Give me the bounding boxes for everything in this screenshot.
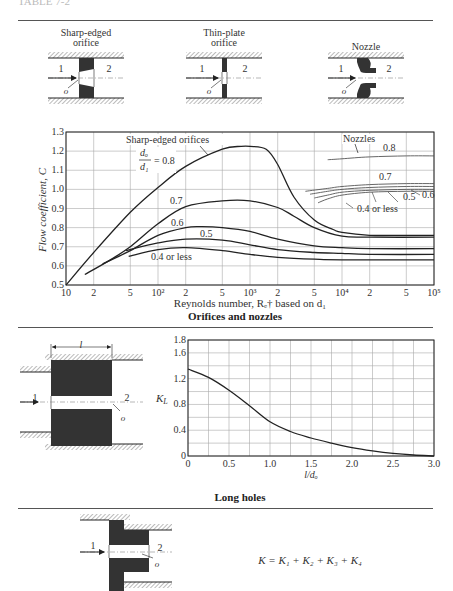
thin-plate-orifice-diagram [186, 52, 262, 104]
label-pointer [388, 192, 398, 202]
label-pointer [372, 192, 376, 202]
y-tick-label: 1.0 [52, 183, 65, 194]
curve-label: 0.7 [170, 195, 183, 206]
nozzles-label: Nozzles [343, 133, 375, 144]
stepped-orifice-diagram [60, 508, 190, 591]
long-hole-label-2: 2 [122, 393, 132, 403]
y-tick-label: 0.8 [174, 398, 187, 409]
x-tick-label: 10⁴ [335, 287, 349, 298]
y-tick-label: 1.2 [52, 145, 65, 156]
label-pointer [346, 203, 353, 208]
y-tick-label: 1.1 [52, 164, 65, 175]
nozzle-title: Nozzle [328, 42, 404, 52]
loss-formula: K = K₁ + K₂ + K₃ + K₄ [250, 555, 370, 565]
curve-label: 0.6 [171, 217, 184, 228]
x-tick-label: 2 [367, 287, 372, 298]
y-tick-label: 1.2 [174, 373, 187, 384]
x-tick-labels: 00.51.01.52.02.53.0 [186, 458, 441, 469]
y-tick-label: 0.9 [52, 203, 65, 214]
curve-label: 0.6 [422, 189, 435, 200]
pipe-wall-bottom [48, 98, 124, 104]
curve-label: 0.8 [383, 142, 396, 153]
y-tick-label: 0.7 [52, 241, 65, 252]
x-tick-label: 0.5 [223, 458, 236, 469]
sharp-label-pointer [200, 146, 208, 155]
y-tick-label: 0.6 [52, 260, 65, 271]
flow-coefficient-chart: 102510²2510³2510⁴2510⁵ 0.50.60.70.80.91.… [0, 120, 453, 310]
sharp-edged-label-o: o [62, 86, 70, 96]
orifice-plate-top [79, 58, 94, 72]
ratio-equals: = 0.8 [154, 155, 175, 166]
curve-label: 0.5 [403, 191, 416, 202]
long-holes-chart: 00.51.01.52.02.53.0 00.40.81.21.61.8 KL … [150, 330, 453, 480]
series-line-nozzle-0-8 [328, 156, 434, 160]
nozzle-top [357, 58, 376, 73]
orifices-caption: Orifices and nozzles [150, 310, 320, 322]
x-tick-label: 1.5 [305, 458, 318, 469]
long-holes-caption: Long holes [180, 491, 300, 503]
top-diagrams [0, 0, 453, 120]
x-tick-label: 10⁵ [427, 287, 441, 298]
y-tick-label: 1.8 [174, 334, 187, 345]
stepped-block-bottom [109, 558, 149, 582]
y-tick-label: 0.4 [174, 424, 187, 435]
x-tick-label: 10² [152, 287, 165, 298]
x-axis-label: l/dₒ [304, 469, 318, 480]
stepped-block-top [109, 520, 149, 545]
pipe-wall-top [48, 52, 124, 58]
nozzle-diagram [328, 52, 404, 104]
curve-label: 0.7 [379, 171, 392, 182]
thin-plate-label-2: 2 [240, 64, 250, 74]
thin-plate-label-o: o [205, 86, 213, 96]
thin-plate-top [222, 58, 227, 72]
y-tick-label: 0.8 [52, 222, 65, 233]
thin-plate-title-2: orifice [186, 38, 262, 48]
nozzle-label-1: 1 [336, 64, 346, 74]
curve-label: 0.4 or less [151, 251, 192, 262]
x-tick-label: 3.0 [428, 458, 441, 469]
stepped-label-o: o [153, 559, 161, 569]
long-hole-label-l: l [76, 340, 86, 350]
y-axis-label: Flow coefficient, C [36, 167, 48, 253]
ratio-numerator: dₒ [140, 147, 148, 158]
y-tick-labels: 00.40.81.21.61.8 [174, 334, 187, 461]
x-tick-label: 2 [91, 287, 96, 298]
x-tick-label: 1.0 [264, 458, 277, 469]
sharp-edged-label-1: 1 [56, 64, 66, 74]
y-tick-label: 1.3 [52, 126, 65, 137]
nozzles-pointer [355, 144, 358, 153]
x-tick-label: 2.5 [387, 458, 400, 469]
nozzle-label-o: o [340, 86, 348, 96]
long-hole-block-bottom [51, 409, 112, 446]
x-axis-label: Reynolds number, Rₑ† based on d₁ [174, 297, 326, 309]
stepped-label-1: 1 [88, 541, 98, 551]
stepped-label-2: 2 [155, 543, 165, 553]
nozzle-bottom [357, 83, 376, 98]
orifice-plate-bottom [79, 84, 94, 98]
x-tick-label: 0 [186, 458, 191, 469]
long-hole-label-o: o [119, 413, 127, 423]
curve-label: 0.4 or less [357, 203, 398, 214]
y-tick-label: 0 [181, 450, 186, 461]
y-tick-label: 1.6 [174, 347, 187, 358]
nozzle-label-2: 2 [384, 64, 394, 74]
long-hole-block-top [51, 360, 112, 396]
y-tick-labels: 0.50.60.70.80.91.01.11.21.3 [52, 126, 65, 290]
y-axis-label: KL [155, 392, 168, 406]
sharp-edged-label-2: 2 [104, 64, 114, 74]
curve-label: 0.5 [200, 228, 213, 239]
thin-plate-bottom [222, 84, 227, 98]
sharp-edged-title-2: orifice [48, 38, 124, 48]
ratio-denominator: d₁ [140, 161, 148, 172]
long-hole-label-1: 1 [30, 393, 40, 403]
thin-plate-label-1: 1 [197, 64, 207, 74]
x-tick-label: 2.0 [346, 458, 359, 469]
middle-divider-1 [18, 327, 433, 328]
y-tick-label: 0.5 [52, 279, 65, 290]
x-tick-label: 5 [404, 287, 409, 298]
sharp-edged-orifice-diagram [48, 52, 124, 104]
sharp-edged-orifices-label: Sharp-edged orifices [126, 134, 209, 145]
x-tick-label: 5 [128, 287, 133, 298]
